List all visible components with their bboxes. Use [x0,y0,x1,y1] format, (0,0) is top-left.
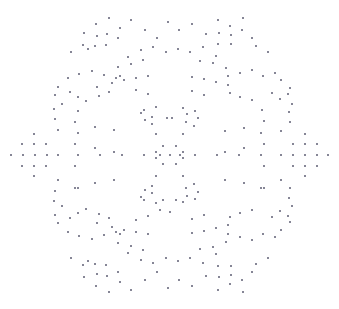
scatter-point [165,51,167,53]
scatter-point [242,17,244,19]
scatter-point [175,199,177,201]
scatter-point [45,165,47,167]
scatter-point [130,245,132,247]
scatter-point [263,143,265,145]
scatter-point [289,221,291,223]
scatter-point [251,69,253,71]
scatter-point [94,182,96,184]
scatter-point [182,201,184,203]
scatter-point [205,275,207,277]
scatter-point [54,94,56,96]
scatter-point [91,70,93,72]
scatter-point [130,19,132,21]
scatter-point [185,121,187,123]
scatter-point [169,211,171,213]
scatter-point [103,234,105,236]
scatter-point [182,107,184,109]
scatter-point [191,218,193,220]
scatter-point [151,116,153,118]
scatter-point [251,99,253,101]
scatter-point [162,145,164,147]
scatter-point [121,154,123,156]
scatter-point [205,33,207,35]
scatter-point [162,199,164,201]
scatter-point [251,209,253,211]
scatter-point [292,143,294,145]
scatter-point [292,165,294,167]
scatter-point [291,205,293,207]
scatter-point [241,279,243,281]
scatter-point [179,154,181,156]
scatter-point [117,37,119,39]
scatter-point [135,89,137,91]
scatter-point [159,154,161,156]
scatter-point [77,212,79,214]
scatter-point [262,75,264,77]
scatter-point [263,120,265,122]
scatter-point [225,67,227,69]
scatter-point [186,195,188,197]
scatter-point [197,117,199,119]
scatter-point [229,216,231,218]
scatter-point [193,125,195,127]
scatter-point [242,291,244,293]
scatter-point [140,112,142,114]
scatter-point [212,246,214,248]
scatter-point [304,175,306,177]
scatter-point [182,175,184,177]
scatter-point [22,154,24,156]
scatter-point [61,205,63,207]
scatter-point [203,230,205,232]
scatter-point [260,154,262,156]
scatter-point [215,227,217,229]
scatter-point [57,222,59,224]
scatter-point [123,79,125,81]
scatter-point [304,143,306,145]
scatter-point [191,285,193,287]
scatter-point [274,72,276,74]
scatter-point [260,132,262,134]
scatter-point [77,96,79,98]
scatter-point [182,157,184,159]
scatter-plot-figure [0,0,339,309]
scatter-point [106,275,108,277]
scatter-point [167,287,169,289]
scatter-point [117,242,119,244]
scatter-point [83,32,85,34]
scatter-point [230,265,232,267]
scatter-point [224,179,226,181]
scatter-point [162,163,164,165]
scatter-point [239,96,241,98]
scatter-point [239,72,241,74]
scatter-point [202,46,204,48]
scatter-point [77,187,79,189]
scatter-point [143,154,145,156]
scatter-point [287,93,289,95]
scatter-point [199,248,201,250]
scatter-point [155,202,157,204]
scatter-point [251,37,253,39]
scatter-point [239,236,241,238]
scatter-point [54,214,56,216]
scatter-point [113,179,115,181]
scatter-point [225,241,227,243]
scatter-point [94,147,96,149]
scatter-point [85,100,87,102]
scatter-point [194,110,196,112]
scatter-point [215,55,217,57]
scatter-point [280,154,282,156]
scatter-point [191,90,193,92]
scatter-point [230,274,232,276]
scatter-point [291,103,293,105]
scatter-point [143,109,145,111]
scatter-point [123,229,125,231]
scatter-point [262,233,264,235]
scatter-point [96,35,98,37]
scatter-point [10,154,12,156]
scatter-point [74,165,76,167]
scatter-point [175,163,177,165]
scatter-point [67,231,69,233]
scatter-point [147,233,149,235]
scatter-point [230,34,232,36]
scatter-point [216,154,218,156]
